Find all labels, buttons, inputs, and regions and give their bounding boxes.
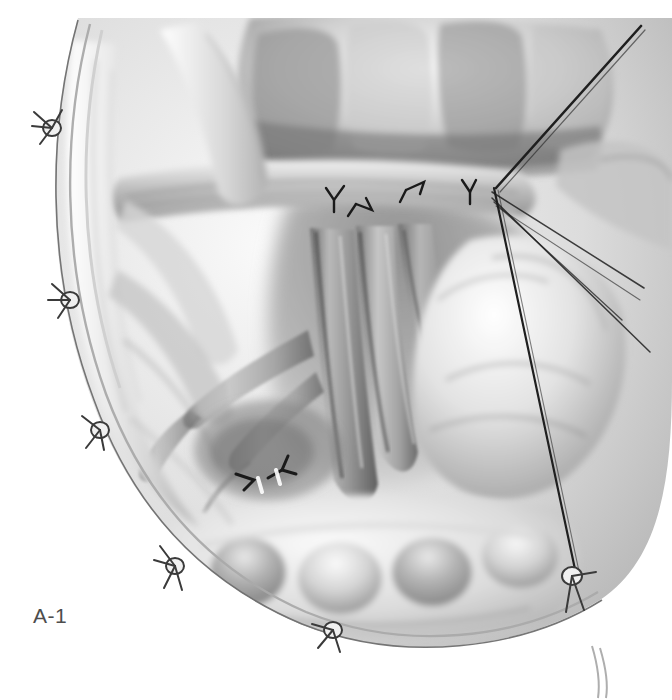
dark-pocket-left [194, 400, 342, 500]
bowel-loops-superior [237, 14, 613, 179]
surgical-illustration [0, 0, 672, 700]
figure-container: A-1 [0, 0, 672, 700]
figure-label: A-1 [33, 604, 67, 628]
